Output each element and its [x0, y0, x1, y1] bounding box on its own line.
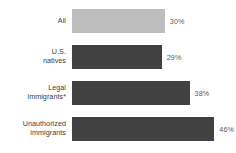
horizontal-bar-chart: All 30% U.S. natives 29% Legal immigrant… — [0, 0, 236, 153]
bar-us-natives — [72, 45, 162, 69]
bar-unauthorized-immigrants — [72, 117, 214, 141]
bar-value-legal-immigrants: 38% — [195, 89, 210, 98]
bar-value-unauthorized-immigrants: 46% — [219, 125, 234, 134]
category-label-all: All — [0, 17, 72, 26]
chart-row: Unauthorized immigrants 46% — [0, 117, 236, 141]
chart-row: Legal immigrants* 38% — [0, 81, 236, 105]
chart-row: All 30% — [0, 9, 236, 33]
category-label-us-natives: U.S. natives — [0, 48, 72, 65]
bar-track: 30% — [72, 9, 236, 33]
bar-track: 29% — [72, 45, 236, 69]
bar-all — [72, 9, 165, 33]
bar-legal-immigrants — [72, 81, 190, 105]
bar-track: 46% — [72, 117, 236, 141]
category-label-unauthorized-immigrants: Unauthorized immigrants — [0, 120, 72, 137]
category-label-legal-immigrants: Legal immigrants* — [0, 84, 72, 101]
chart-row: U.S. natives 29% — [0, 45, 236, 69]
bar-value-all: 30% — [170, 17, 185, 26]
bar-value-us-natives: 29% — [167, 53, 182, 62]
bar-track: 38% — [72, 81, 236, 105]
